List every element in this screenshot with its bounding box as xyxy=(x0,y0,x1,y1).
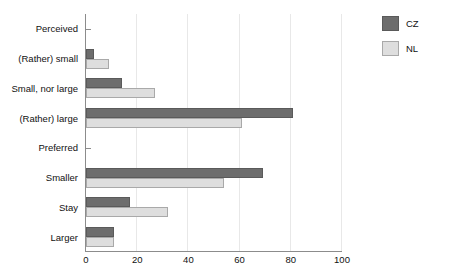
legend-swatch-nl xyxy=(382,41,399,56)
x-tick-label-20: 20 xyxy=(132,254,143,265)
axis-tick-mark xyxy=(86,148,91,149)
bar-nl-smaller xyxy=(86,178,224,188)
bar-cz-rather-small xyxy=(86,49,94,59)
bar-cz-small-nor-large xyxy=(86,78,122,88)
legend-item-cz[interactable]: CZ xyxy=(382,16,419,31)
category-label: Small, nor large xyxy=(0,83,78,94)
axis-tick-mark xyxy=(86,29,91,30)
bar-nl-rather-large xyxy=(86,118,242,128)
category-label: (Rather) large xyxy=(0,113,78,124)
bar-row: (Rather) large xyxy=(0,103,458,133)
bar-nl-larger xyxy=(86,237,114,247)
legend-swatch-cz xyxy=(382,16,399,31)
bar-nl-stay xyxy=(86,207,168,217)
bar-row: Larger xyxy=(0,222,458,252)
bar-nl-rather-small xyxy=(86,59,109,69)
legend-label: NL xyxy=(406,43,418,54)
x-tick-label-80: 80 xyxy=(286,254,297,265)
bar-pair xyxy=(86,168,263,188)
group-header-row: Preferred xyxy=(0,133,458,163)
bar-cz-smaller xyxy=(86,168,263,178)
x-tick-label-0: 0 xyxy=(83,254,88,265)
category-label: Smaller xyxy=(0,172,78,183)
category-label: Larger xyxy=(0,232,78,243)
chart-legend: CZNL xyxy=(382,16,419,66)
bar-chart: Perceived(Rather) smallSmall, nor large(… xyxy=(0,0,458,280)
bar-cz-larger xyxy=(86,227,114,237)
bar-cz-rather-large xyxy=(86,108,293,118)
category-label: (Rather) small xyxy=(0,53,78,64)
x-tick-label-100: 100 xyxy=(334,254,350,265)
bar-pair xyxy=(86,78,155,98)
bar-row: Stay xyxy=(0,193,458,223)
legend-item-nl[interactable]: NL xyxy=(382,41,419,56)
bar-cz-stay xyxy=(86,197,130,207)
bar-row: Small, nor large xyxy=(0,74,458,104)
bar-pair xyxy=(86,49,109,69)
category-label: Stay xyxy=(0,202,78,213)
x-tick-label-40: 40 xyxy=(183,254,194,265)
bar-pair xyxy=(86,227,114,247)
category-label: Perceived xyxy=(0,23,78,34)
bar-pair xyxy=(86,108,293,128)
legend-label: CZ xyxy=(406,18,419,29)
category-label: Preferred xyxy=(0,142,78,153)
x-tick-label-60: 60 xyxy=(234,254,245,265)
x-axis-tick-labels: 020406080100 xyxy=(0,254,458,270)
bar-pair xyxy=(86,197,168,217)
bar-nl-small-nor-large xyxy=(86,88,155,98)
bar-row: Smaller xyxy=(0,163,458,193)
